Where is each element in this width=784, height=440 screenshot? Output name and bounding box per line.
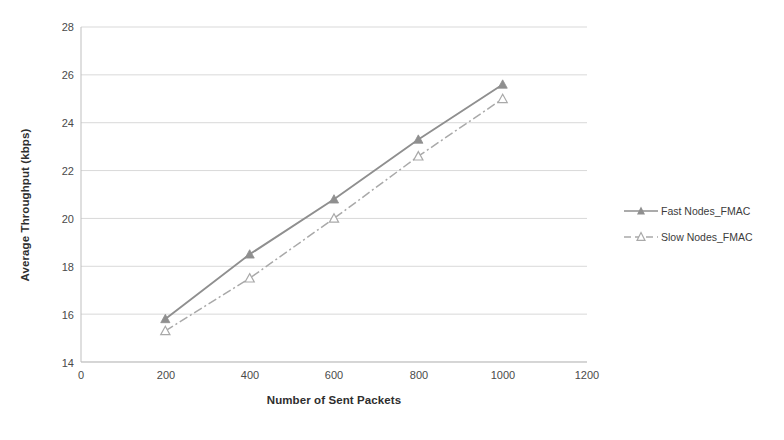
data-series-layer — [161, 80, 508, 335]
data-point-marker — [161, 326, 170, 334]
data-point-marker — [498, 80, 507, 88]
data-point-marker — [414, 135, 423, 143]
data-point-marker — [414, 152, 423, 160]
data-point-marker — [245, 274, 254, 282]
legend-label-slow-nodes: Slow Nodes_FMAC — [658, 231, 753, 243]
series-slow-nodes — [161, 94, 508, 334]
legend-item-fast-nodes[interactable]: Fast Nodes_FMAC — [624, 198, 776, 224]
throughput-line-chart: Average Throughput (kbps) Number of Sent… — [0, 0, 784, 440]
legend-item-slow-nodes[interactable]: Slow Nodes_FMAC — [624, 224, 776, 250]
legend-key-slow-nodes — [624, 230, 658, 244]
legend: Fast Nodes_FMAC Slow Nodes_FMAC — [624, 198, 776, 250]
legend-label-fast-nodes: Fast Nodes_FMAC — [658, 205, 750, 217]
series-fast-nodes — [161, 80, 508, 323]
data-point-marker — [498, 94, 507, 102]
legend-key-fast-nodes — [624, 204, 658, 218]
data-point-marker — [245, 250, 254, 258]
